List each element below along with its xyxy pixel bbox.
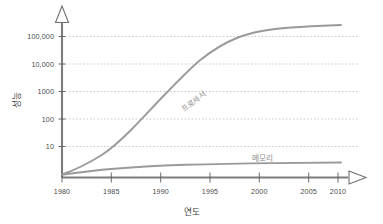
chart-container: 100,000 10,000 1000 100 10 1980 1985 199… — [0, 0, 383, 224]
x-tick-label-2000: 2000 — [241, 187, 277, 196]
x-tick-label-1980: 1980 — [44, 187, 80, 196]
series-line-memory — [62, 163, 341, 175]
series-label-memory: 메모리 — [252, 152, 273, 163]
x-tick-label-1995: 1995 — [192, 187, 228, 196]
y-axis-title: 성능 — [10, 80, 22, 120]
x-tick-label-2010: 2010 — [320, 187, 356, 196]
x-tick-label-1990: 1990 — [143, 187, 179, 196]
x-axis — [62, 171, 366, 184]
x-axis-arrowhead — [349, 171, 366, 184]
x-tick-label-1985: 1985 — [93, 187, 129, 196]
y-axis-arrowhead — [56, 6, 69, 23]
y-tick-label-10000: 10,000 — [4, 60, 54, 69]
x-axis-title: 연도 — [171, 205, 213, 217]
y-tick-label-100000: 100,000 — [4, 32, 54, 41]
y-tick-label-10: 10 — [4, 142, 54, 151]
